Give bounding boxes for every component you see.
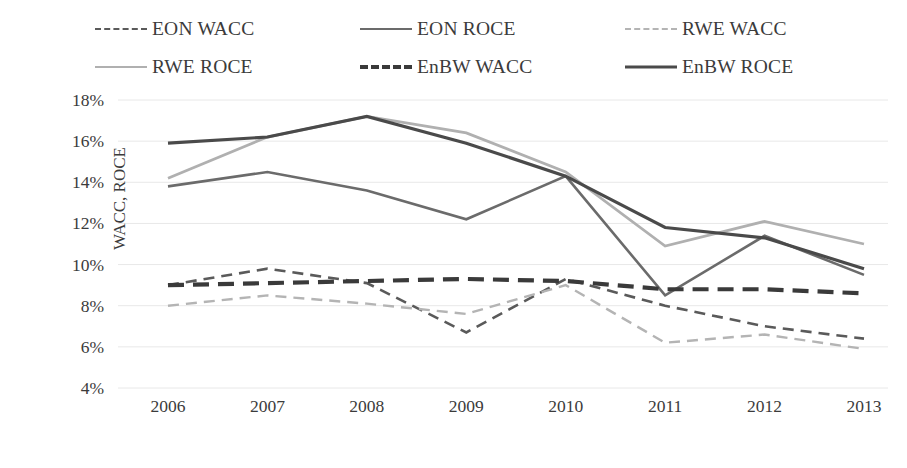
legend-item-enbw-wacc[interactable]: EnBW WACC xyxy=(360,48,625,86)
legend-label-enbw-wacc: EnBW WACC xyxy=(417,56,532,78)
y-axis-tick-label: 4% xyxy=(34,378,104,399)
legend-swatch-rwe-roce xyxy=(95,60,147,74)
series-lines xyxy=(118,100,888,390)
legend-swatch-eon-wacc xyxy=(95,22,147,36)
x-axis-tick-label: 2013 xyxy=(847,396,882,417)
x-axis-tick-label: 2011 xyxy=(648,396,682,417)
x-axis-tick-label: 2009 xyxy=(449,396,484,417)
legend-row: EON WACCEON ROCERWE WACC xyxy=(95,10,895,48)
legend-item-eon-roce[interactable]: EON ROCE xyxy=(360,10,625,48)
legend-item-rwe-roce[interactable]: RWE ROCE xyxy=(95,48,360,86)
legend-swatch-enbw-wacc xyxy=(360,60,412,74)
y-axis-tick-label: 18% xyxy=(34,90,104,111)
legend-item-eon-wacc[interactable]: EON WACC xyxy=(95,10,360,48)
legend-label-enbw-roce: EnBW ROCE xyxy=(682,56,793,78)
legend-item-enbw-roce[interactable]: EnBW ROCE xyxy=(625,48,890,86)
series-line-enbw-wacc xyxy=(168,279,864,293)
chart-container: EON WACCEON ROCERWE WACCRWE ROCEEnBW WAC… xyxy=(0,0,907,468)
x-axis-tick-label: 2012 xyxy=(747,396,782,417)
legend-label-rwe-roce: RWE ROCE xyxy=(152,56,253,78)
legend-swatch-rwe-wacc xyxy=(625,22,677,36)
series-line-eon-wacc xyxy=(168,269,864,339)
y-axis-tick-label: 16% xyxy=(34,131,104,152)
legend-item-rwe-wacc[interactable]: RWE WACC xyxy=(625,10,890,48)
legend-swatch-enbw-roce xyxy=(625,60,677,74)
y-axis-tick-label: 14% xyxy=(34,172,104,193)
plot-area: 4%6%8%10%12%14%16%18% 200620072008200920… xyxy=(118,100,888,388)
y-axis-tick-label: 10% xyxy=(34,254,104,275)
series-line-rwe-wacc xyxy=(168,285,864,349)
chart-legend: EON WACCEON ROCERWE WACCRWE ROCEEnBW WAC… xyxy=(95,10,895,88)
y-axis-tick-label: 6% xyxy=(34,336,104,357)
series-line-eon-roce xyxy=(168,172,864,295)
legend-label-rwe-wacc: RWE WACC xyxy=(682,18,787,40)
x-axis-tick-label: 2007 xyxy=(250,396,285,417)
x-axis-tick-label: 2006 xyxy=(151,396,186,417)
y-axis-tick-label: 8% xyxy=(34,295,104,316)
y-axis-tick-label: 12% xyxy=(34,213,104,234)
x-axis-tick-label: 2010 xyxy=(548,396,583,417)
series-line-enbw-roce xyxy=(168,116,864,268)
legend-label-eon-roce: EON ROCE xyxy=(417,18,516,40)
x-axis-tick-label: 2008 xyxy=(349,396,384,417)
legend-row: RWE ROCEEnBW WACCEnBW ROCE xyxy=(95,48,895,86)
legend-swatch-eon-roce xyxy=(360,22,412,36)
legend-label-eon-wacc: EON WACC xyxy=(152,18,255,40)
y-axis-label: WACC, ROCE xyxy=(110,147,130,250)
